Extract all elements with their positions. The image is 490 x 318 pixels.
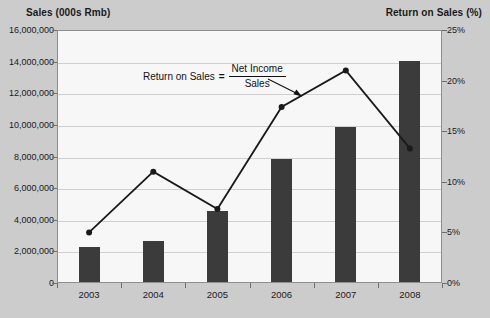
x-label-2004: 2004: [143, 289, 164, 300]
left-tick-label: 14,000,000: [0, 57, 54, 67]
right-tick-label: 5%: [447, 227, 489, 237]
bar-2004: [143, 241, 164, 282]
chart-figure: Sales (000s Rmb) Return on Sales (%) 02,…: [0, 0, 490, 318]
gridline: [58, 252, 441, 253]
formula-fraction: Net Income Sales: [229, 63, 286, 89]
right-tick-mark: [442, 30, 447, 31]
formula-numerator: Net Income: [229, 63, 286, 76]
left-tick-label: 8,000,000: [0, 152, 54, 162]
left-tick-mark: [52, 188, 57, 189]
left-tick-label: 10,000,000: [0, 120, 54, 130]
right-tick-label: 15%: [447, 126, 489, 136]
gridline: [58, 158, 441, 159]
left-tick-mark: [52, 157, 57, 158]
left-tick-mark: [52, 125, 57, 126]
right-axis-title: Return on Sales (%): [386, 7, 482, 18]
right-tick-mark: [442, 232, 447, 233]
gridline: [58, 189, 441, 190]
x-label-2007: 2007: [335, 289, 356, 300]
x-label-2005: 2005: [207, 289, 228, 300]
right-tick-mark: [442, 81, 447, 82]
formula-label: Return on Sales: [143, 71, 219, 82]
bar-2006: [271, 159, 292, 282]
right-tick-mark: [442, 182, 447, 183]
bar-2007: [335, 127, 356, 282]
bar-2003: [79, 247, 100, 282]
x-tick-mark: [378, 283, 379, 288]
return-on-sales-formula: Return on Sales = Net Income Sales: [143, 63, 286, 89]
left-tick-mark: [52, 93, 57, 94]
left-tick-label: 16,000,000: [0, 25, 54, 35]
x-label-2003: 2003: [79, 289, 100, 300]
left-tick-mark: [52, 220, 57, 221]
left-tick-label: 6,000,000: [0, 183, 54, 193]
x-label-2008: 2008: [399, 289, 420, 300]
left-axis-title: Sales (000s Rmb): [26, 7, 110, 18]
gridline: [58, 94, 441, 95]
left-tick-label: 0: [0, 278, 54, 288]
x-tick-mark: [442, 283, 443, 288]
x-tick-mark: [121, 283, 122, 288]
bar-2008: [399, 61, 420, 282]
left-tick-label: 12,000,000: [0, 88, 54, 98]
x-label-2006: 2006: [271, 289, 292, 300]
left-tick-label: 4,000,000: [0, 215, 54, 225]
right-tick-label: 25%: [447, 25, 489, 35]
right-tick-label: 20%: [447, 76, 489, 86]
right-tick-label: 10%: [447, 177, 489, 187]
left-tick-label: 2,000,000: [0, 246, 54, 256]
x-tick-mark: [250, 283, 251, 288]
x-tick-mark: [57, 283, 58, 288]
right-tick-label: 0%: [447, 278, 489, 288]
bar-2005: [207, 211, 228, 282]
x-tick-mark: [185, 283, 186, 288]
x-tick-mark: [314, 283, 315, 288]
gridline: [58, 126, 441, 127]
right-tick-mark: [442, 131, 447, 132]
formula-denominator: Sales: [242, 77, 273, 90]
left-tick-mark: [52, 251, 57, 252]
gridline: [58, 221, 441, 222]
left-tick-mark: [52, 30, 57, 31]
left-tick-mark: [52, 62, 57, 63]
formula-equals: =: [219, 71, 229, 82]
